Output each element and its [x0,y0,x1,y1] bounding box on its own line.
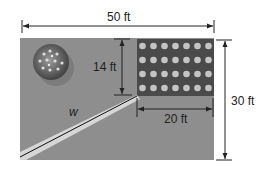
label-path-w: w [69,106,78,118]
label-top-width: 50 ft [107,11,130,23]
label-garden-height: 14 ft [93,61,116,73]
figure-canvas [0,0,262,178]
garden [137,39,214,96]
tree-icon [33,44,69,80]
label-right-height: 30 ft [231,95,254,107]
dimension-30ft [216,40,232,160]
label-garden-width: 20 ft [164,113,187,125]
